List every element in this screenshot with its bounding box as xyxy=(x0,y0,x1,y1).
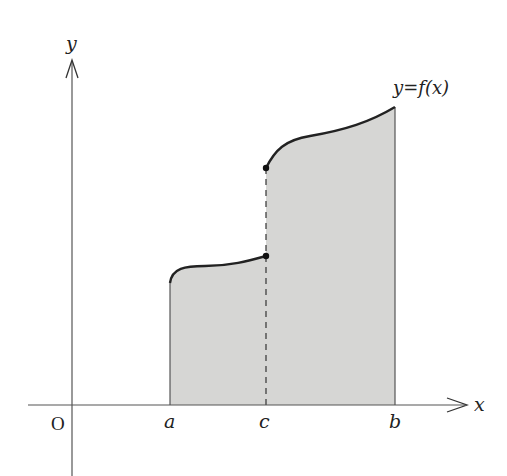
shaded-region-left xyxy=(170,256,266,405)
endpoint-dot-upper xyxy=(263,165,269,171)
origin-label: O xyxy=(51,414,65,433)
diagram-svg xyxy=(0,0,507,476)
point-a-label: a xyxy=(164,412,175,431)
function-label: y=f(x) xyxy=(393,79,449,97)
point-b-label: b xyxy=(389,412,401,431)
endpoint-dot-lower xyxy=(263,253,269,259)
y-axis-label: y xyxy=(66,34,77,53)
point-c-label: c xyxy=(259,412,270,431)
integral-diagram: y x O a c b y=f(x) xyxy=(0,0,507,476)
shaded-region-right xyxy=(266,107,395,405)
x-axis-label: x xyxy=(474,395,485,414)
